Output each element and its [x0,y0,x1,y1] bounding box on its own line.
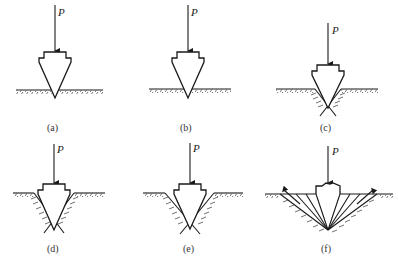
heave-arrow-right [357,190,373,204]
caption-a: (a) [47,122,58,134]
caption-c: (c) [320,122,331,134]
wedge-indenter [174,184,206,229]
load-label: P [56,143,64,155]
figure-canvas: P (a) P (b) P (c) [0,0,398,264]
load-label: P [331,145,339,157]
panel-b: P (b) [149,5,231,134]
load-label: P [190,6,198,18]
ground-hatch [378,195,393,199]
load-label: P [331,24,339,36]
caption-b: (b) [180,122,192,134]
wedge-indenter [38,184,70,230]
panel-f: P (f [265,145,393,255]
panel-a: P (a) [16,5,103,134]
caption-f: (f) [321,243,331,255]
ground-hatch [276,90,315,94]
heave-arrow-left [284,190,300,204]
panel-d: P (d) [13,143,105,255]
ground-hatch [74,194,105,198]
load-label: P [57,6,65,18]
panel-e: P (e) [143,142,243,255]
ground-hatch [265,195,279,199]
ground-hatch [341,90,378,94]
ground-hatch [143,194,165,198]
ground-hatch [16,91,103,95]
caption-e: (e) [183,243,194,255]
panel-c: P (c) [276,23,378,134]
caption-d: (d) [47,243,59,255]
indenter-cap [316,183,340,194]
ground-hatch [214,194,243,198]
load-label: P [192,142,200,154]
ground-hatch [13,194,34,198]
